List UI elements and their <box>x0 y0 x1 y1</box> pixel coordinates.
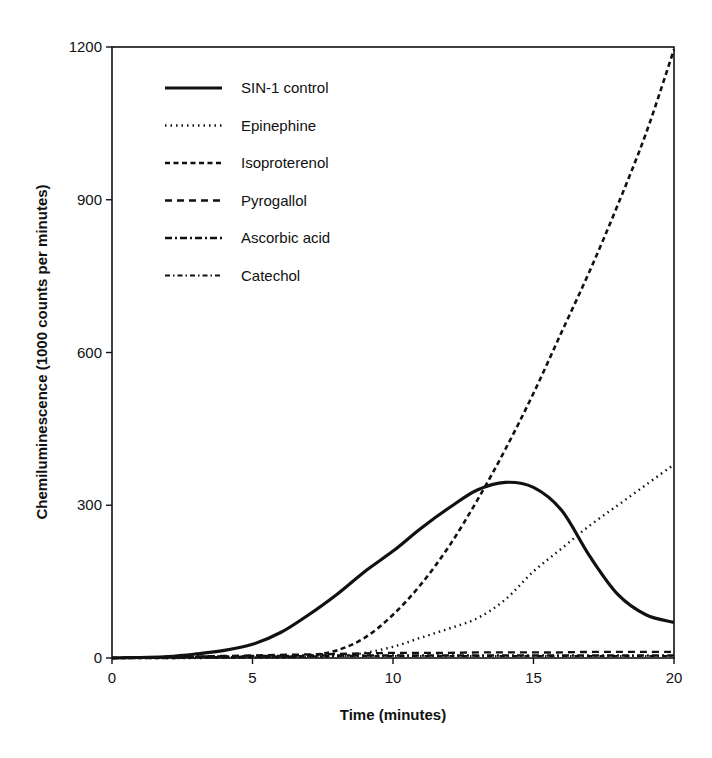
y-axis-ticks: 03006009001200 <box>69 38 112 666</box>
x-axis-ticks: 05101520 <box>108 658 683 686</box>
legend-label: Epinephine <box>241 117 316 134</box>
y-tick-label: 300 <box>77 496 102 513</box>
x-tick-label: 10 <box>385 669 402 686</box>
x-tick-label: 20 <box>666 669 683 686</box>
legend-item: Pyrogallol <box>165 192 307 209</box>
y-axis-title: Chemiluminescence (1000 counts per minut… <box>33 184 50 519</box>
legend-label: Pyrogallol <box>241 192 307 209</box>
legend-item: SIN-1 control <box>165 79 329 96</box>
chemiluminescence-chart: 03006009001200 05101520 SIN-1 controlEpi… <box>0 0 712 758</box>
legend-item: Catechol <box>165 267 300 284</box>
plot-frame <box>112 47 674 658</box>
series-line-epinephine <box>112 465 674 659</box>
legend: SIN-1 controlEpinephineIsoproterenolPyro… <box>165 79 330 284</box>
legend-label: Ascorbic acid <box>241 229 330 246</box>
x-tick-label: 0 <box>108 669 116 686</box>
y-tick-label: 600 <box>77 344 102 361</box>
legend-item: Epinephine <box>165 117 316 134</box>
legend-label: Isoproterenol <box>241 154 329 171</box>
legend-label: SIN-1 control <box>241 79 329 96</box>
y-tick-label: 0 <box>94 649 102 666</box>
series-line-isoproterenol <box>112 50 674 659</box>
legend-item: Isoproterenol <box>165 154 329 171</box>
x-tick-label: 15 <box>525 669 542 686</box>
x-tick-label: 5 <box>248 669 256 686</box>
y-tick-label: 1200 <box>69 38 102 55</box>
y-tick-label: 900 <box>77 191 102 208</box>
series-line-sin-1-control <box>112 482 674 658</box>
x-axis-title: Time (minutes) <box>340 706 446 723</box>
legend-item: Ascorbic acid <box>165 229 330 246</box>
series-lines <box>112 50 674 659</box>
legend-label: Catechol <box>241 267 300 284</box>
